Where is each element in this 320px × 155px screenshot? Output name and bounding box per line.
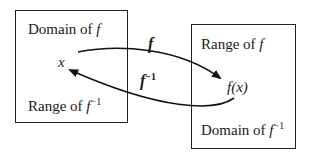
right-top-label: Range of f [201, 37, 264, 52]
inverse-arrow-label: f−1 [140, 72, 156, 89]
left-top-label: Domain of f [28, 22, 101, 37]
forward-arrow-label: f [148, 36, 153, 52]
point-x: x [58, 55, 65, 70]
point-f-of-x: f(x) [227, 80, 248, 95]
left-bottom-label: Range of f−1 [28, 97, 101, 114]
right-bottom-label: Domain of f−1 [201, 121, 284, 138]
